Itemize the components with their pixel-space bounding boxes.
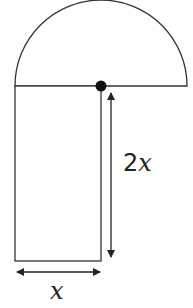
diagram-canvas: 2x x [0,0,193,308]
height-label: 2x [123,149,152,177]
height-label-coef: 2 [123,149,138,177]
height-label-var: x [138,149,152,177]
width-label: x [50,277,64,305]
rectangle [15,86,101,261]
semicircle [15,0,187,86]
center-point-dot [96,81,107,92]
